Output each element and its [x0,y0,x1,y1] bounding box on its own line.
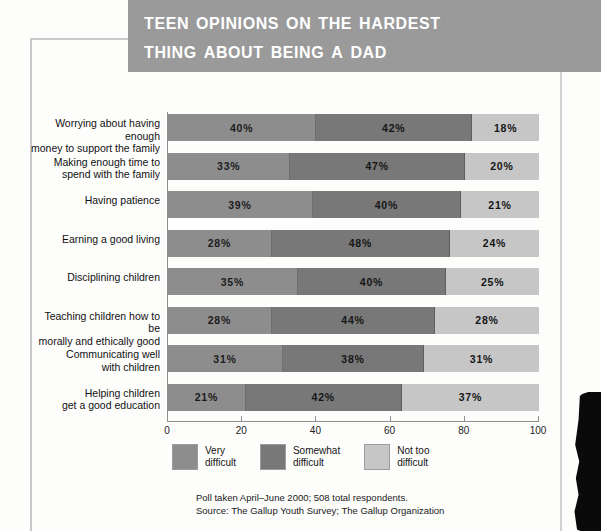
x-tick-label: 80 [458,425,469,436]
bar-segment: 25% [446,268,539,295]
category-label: Worrying about having enough money to su… [30,117,160,155]
x-tick-label: 100 [530,425,547,436]
bar-segment: 40% [298,268,446,295]
bar-row: 35%40%25% [168,268,539,295]
bar-segment: 21% [461,191,539,218]
bar-segment: 42% [246,384,402,411]
bar-segment: 20% [465,153,539,180]
bar-segment: 24% [450,230,539,257]
bar-segment: 47% [290,153,464,180]
bar-segment: 31% [168,345,283,372]
bar-segment: 38% [283,345,424,372]
bar-segment: 21% [168,384,246,411]
bar-segment: 35% [168,268,298,295]
legend-item[interactable]: Not too difficult [364,444,429,470]
title-banner: Teen Opinions on the Hardest Thing About… [128,0,601,72]
x-tick-label: 40 [310,425,321,436]
x-tick-mark [241,416,242,422]
bar-segment: 18% [472,114,539,141]
scan-edge-shadow [567,392,601,531]
legend-label: Not too difficult [397,444,429,469]
legend-swatch [364,444,390,470]
category-label: Helping children get a good education [30,387,160,412]
page-title-line-1: Teen Opinions on the Hardest [144,7,601,36]
bar-segment: 33% [168,153,290,180]
bar-row: 21%42%37% [168,384,539,411]
page-rule-horizontal [30,38,130,40]
x-tick-label: 20 [236,425,247,436]
legend-swatch [260,444,286,470]
bar-segment: 44% [272,307,435,334]
category-label: Disciplining children [30,271,160,284]
bar-row: 31%38%31% [168,345,539,372]
footnote-line-2: Source: The Gallup Youth Survey; The Gal… [196,505,444,518]
x-axis-line [167,421,539,422]
legend-item[interactable]: Very difficult [172,444,236,470]
page-title-line-2: Thing About Being a Dad [144,36,601,65]
bar-segment: 28% [168,307,272,334]
x-tick-mark [464,416,465,422]
bar-row: 39%40%21% [168,191,539,218]
chart-page: Teen Opinions on the Hardest Thing About… [0,0,601,531]
x-tick-mark [390,416,391,422]
bar-row: 40%42%18% [168,114,539,141]
legend-label: Very difficult [205,444,236,469]
bar-row: 33%47%20% [168,153,539,180]
category-label: Having patience [30,194,160,207]
x-tick-label: 0 [164,425,170,436]
bar-row: 28%44%28% [168,307,539,334]
x-tick-mark [315,416,316,422]
legend-item[interactable]: Somewhat difficult [260,444,340,470]
x-tick-mark [167,416,168,422]
x-tick-mark [538,416,539,422]
category-label: Earning a good living [30,233,160,246]
page-rule-vertical-right [560,0,562,531]
chart-footnote: Poll taken April–June 2000; 508 total re… [196,492,444,517]
footnote-line-1: Poll taken April–June 2000; 508 total re… [196,492,444,505]
bar-row: 28%48%24% [168,230,539,257]
chart-plot-area: Worrying about having enough money to su… [30,100,560,430]
bar-segment: 40% [168,114,316,141]
category-label: Making enough time to spend with the fam… [30,156,160,181]
legend-swatch [172,444,198,470]
bar-segment: 40% [313,191,461,218]
category-label: Communicating well with children [30,348,160,373]
bar-segment: 31% [424,345,539,372]
bar-segment: 39% [168,191,313,218]
x-tick-label: 60 [384,425,395,436]
bar-segment: 37% [402,384,539,411]
legend-label: Somewhat difficult [293,444,340,469]
bar-segment: 28% [435,307,539,334]
bar-segment: 42% [316,114,472,141]
chart-legend: Very difficultSomewhat difficultNot too … [172,444,429,470]
bar-segment: 48% [272,230,450,257]
bar-segment: 28% [168,230,272,257]
category-label: Teaching children how to be morally and … [30,310,160,348]
